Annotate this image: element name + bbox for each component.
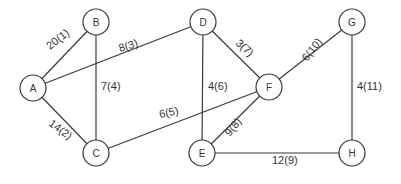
node-label: A: [30, 83, 37, 94]
edge-c-f: [96, 87, 269, 153]
node-f: F: [256, 74, 282, 100]
edge-label-a-c: 14(2): [47, 117, 75, 142]
node-label: D: [199, 17, 206, 28]
node-label: C: [92, 148, 99, 159]
node-h: H: [339, 140, 365, 166]
edge-label-a-b: 20(1): [44, 26, 72, 51]
graph-diagram: 20(1)14(2)8(3)7(4)6(5)4(6)3(7)9(8)12(9)6…: [0, 0, 401, 184]
node-label: G: [348, 17, 356, 28]
edge-label-b-c: 7(4): [101, 80, 121, 92]
node-label: B: [93, 17, 100, 28]
edge-label-e-f: 9(8): [222, 115, 244, 138]
node-d: D: [190, 9, 216, 35]
edge-label-c-f: 6(5): [158, 104, 180, 120]
node-label: H: [348, 148, 355, 159]
edge-label-f-g: 6(10): [299, 36, 324, 64]
node-label: E: [199, 148, 206, 159]
edge-d-f: [203, 22, 269, 87]
nodes-layer: ABCDEFGH: [20, 9, 365, 166]
node-g: G: [339, 9, 365, 35]
edge-d-e: [202, 22, 203, 153]
node-c: C: [83, 140, 109, 166]
edges-layer: [33, 22, 352, 153]
edge-label-g-h: 4(11): [357, 80, 382, 92]
node-b: B: [83, 9, 109, 35]
node-label: F: [266, 82, 272, 93]
node-e: E: [189, 140, 215, 166]
node-a: A: [20, 75, 46, 101]
edge-label-e-h: 12(9): [272, 154, 298, 166]
edge-label-a-d: 8(3): [117, 37, 139, 54]
edge-label-d-e: 4(6): [208, 80, 228, 92]
